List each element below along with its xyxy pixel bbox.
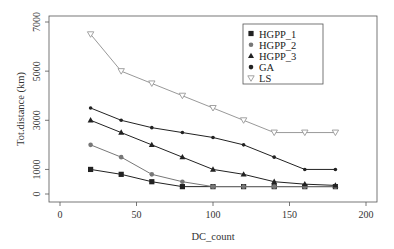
x-axis: 050100150200: [58, 202, 374, 220]
data-point: [179, 93, 185, 99]
data-point: [211, 184, 216, 189]
x-tick-label: 150: [282, 209, 297, 220]
data-point: [334, 168, 338, 172]
data-point: [211, 136, 215, 140]
series-hgpp-2: [88, 143, 337, 189]
legend-marker-icon: [249, 42, 254, 47]
y-tick-label: 3000: [31, 110, 42, 130]
data-point: [88, 167, 93, 172]
x-tick-label: 200: [359, 209, 374, 220]
data-point: [119, 118, 123, 122]
x-tick-label: 0: [58, 209, 63, 220]
series-hgpp-3: [88, 117, 339, 188]
legend-label: LS: [259, 73, 271, 84]
data-point: [150, 126, 154, 130]
data-point: [88, 117, 94, 122]
x-axis-label: DC_count: [191, 231, 234, 242]
data-point: [89, 106, 93, 110]
y-tick-label: 1000: [31, 159, 42, 179]
data-point: [181, 131, 185, 135]
y-axis: 01000300050007000: [31, 12, 49, 197]
series-ga: [89, 106, 337, 171]
data-point: [180, 184, 185, 189]
y-tick-label: 5000: [31, 61, 42, 81]
data-point: [210, 106, 216, 112]
legend-label: GA: [259, 62, 275, 73]
y-tick-label: 0: [31, 192, 42, 197]
y-tick-label: 7000: [31, 12, 42, 32]
line-chart: 01000300050007000 050100150200 Tot.dista…: [0, 0, 394, 249]
x-tick-label: 50: [132, 209, 142, 220]
data-point: [150, 172, 155, 177]
data-point: [240, 118, 246, 124]
data-point: [242, 143, 246, 147]
data-point: [272, 184, 277, 189]
data-point: [149, 179, 154, 184]
data-point: [118, 69, 124, 75]
data-point: [149, 81, 155, 87]
data-point: [180, 179, 185, 184]
data-point: [303, 168, 307, 172]
data-point: [119, 172, 124, 177]
legend: HGPP_1HGPP_2HGPP_3GALS: [243, 24, 323, 84]
legend-marker-icon: [248, 31, 253, 36]
data-point: [88, 143, 93, 148]
series-line: [91, 145, 336, 187]
legend-label: HGPP_1: [259, 29, 296, 40]
data-point: [119, 155, 124, 160]
data-point: [241, 184, 246, 189]
legend-label: HGPP_3: [259, 51, 296, 62]
x-tick-label: 100: [206, 209, 221, 220]
legend-label: HGPP_2: [259, 40, 296, 51]
data-point: [272, 155, 276, 159]
y-axis-label: Tot.distance (km): [15, 72, 27, 146]
legend-marker-icon: [249, 65, 254, 70]
